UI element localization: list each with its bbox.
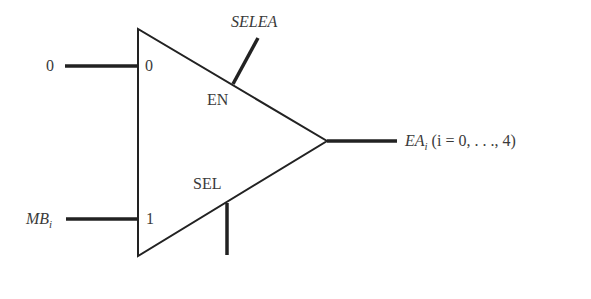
select-port-label: SEL	[193, 176, 221, 192]
port-1-label: 1	[146, 211, 154, 227]
mux-triangle	[138, 29, 327, 256]
enable-wire	[233, 38, 258, 84]
output-signal: EAi (i = 0, . . ., 4)	[405, 133, 516, 154]
enable-port-label: EN	[207, 92, 228, 108]
input-1-signal: MBi	[26, 211, 52, 232]
input-0-signal: 0	[46, 58, 54, 74]
port-0-label: 0	[145, 58, 153, 74]
enable-signal: SELEA	[231, 14, 277, 30]
